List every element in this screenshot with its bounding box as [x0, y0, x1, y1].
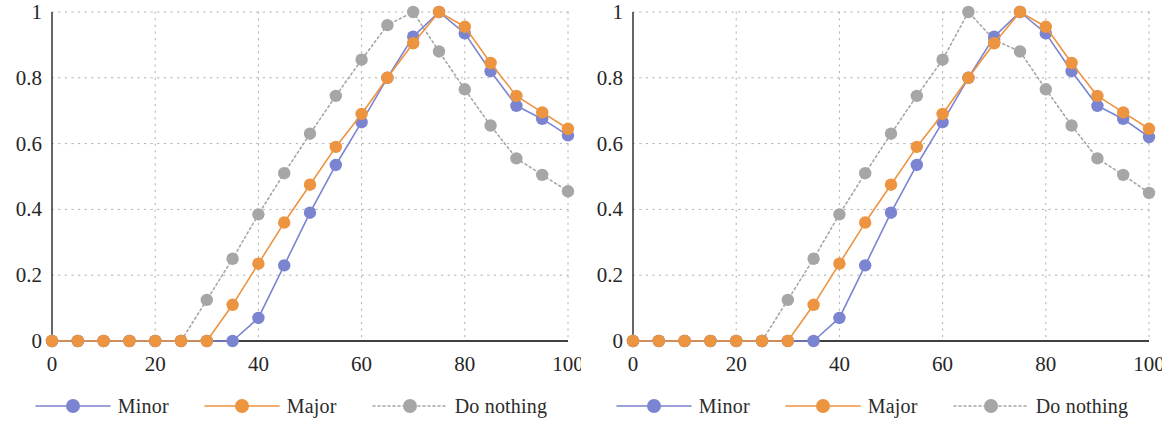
data-point-marker — [704, 335, 716, 347]
legend-swatch-icon — [203, 396, 281, 416]
x-tick-label: 40 — [829, 352, 850, 376]
y-tick-label: 0.2 — [597, 263, 623, 287]
data-point-marker — [1040, 21, 1052, 33]
legend-right: MinorMajorDo nothing — [581, 388, 1162, 424]
x-tick-label: 0 — [628, 352, 639, 376]
data-point-marker — [355, 54, 367, 66]
legend-swatch-icon — [952, 396, 1030, 416]
line-chart-left: 00.20.40.60.81020406080100 — [0, 0, 581, 390]
data-point-marker — [962, 6, 974, 18]
data-point-marker — [988, 37, 1000, 49]
data-point-marker — [226, 253, 238, 265]
data-point-marker — [433, 45, 445, 57]
data-point-marker — [252, 257, 264, 269]
data-point-marker — [859, 259, 871, 271]
data-point-marker — [484, 119, 496, 131]
x-tick-label: 60 — [351, 352, 372, 376]
legend-entry-major[interactable]: Major — [203, 395, 337, 418]
legend-entry-do-nothing[interactable]: Do nothing — [952, 395, 1129, 418]
data-point-marker — [859, 216, 871, 228]
data-point-marker — [1014, 45, 1026, 57]
data-point-marker — [730, 335, 742, 347]
legend-label: Major — [287, 395, 337, 418]
data-point-marker — [201, 294, 213, 306]
legend-swatch-icon — [615, 396, 693, 416]
data-point-marker — [1143, 187, 1155, 199]
data-point-marker — [1014, 6, 1026, 18]
y-tick-label: 0.8 — [597, 66, 623, 90]
data-point-marker — [407, 6, 419, 18]
y-tick-label: 0 — [32, 329, 43, 353]
data-point-marker — [885, 128, 897, 140]
data-point-marker — [756, 335, 768, 347]
legend-swatch-icon — [34, 396, 112, 416]
figure-container: 00.20.40.60.81020406080100 MinorMajorDo … — [0, 0, 1163, 424]
data-point-marker — [936, 54, 948, 66]
data-point-marker — [97, 335, 109, 347]
legend-entry-major[interactable]: Major — [784, 395, 918, 418]
y-tick-label: 0.4 — [16, 197, 43, 221]
data-point-marker — [807, 253, 819, 265]
x-tick-label: 20 — [145, 352, 166, 376]
plot-area-right: 00.20.40.60.81020406080100 — [581, 0, 1162, 390]
data-point-marker — [407, 37, 419, 49]
data-point-marker — [536, 169, 548, 181]
data-point-marker — [330, 159, 342, 171]
data-point-marker — [885, 206, 897, 218]
legend-label: Do nothing — [1036, 395, 1129, 418]
x-tick-label: 20 — [726, 352, 747, 376]
y-tick-label: 0.6 — [597, 132, 623, 156]
legend-entry-minor[interactable]: Minor — [34, 395, 169, 418]
y-tick-label: 1 — [613, 0, 624, 24]
legend-entry-do-nothing[interactable]: Do nothing — [371, 395, 548, 418]
data-point-marker — [536, 106, 548, 118]
chart-panel-right: 00.20.40.60.81020406080100 MinorMajorDo … — [581, 0, 1162, 424]
data-point-marker — [72, 335, 84, 347]
data-point-marker — [627, 335, 639, 347]
data-point-marker — [1065, 57, 1077, 69]
data-point-marker — [149, 335, 161, 347]
x-tick-label: 100 — [1133, 352, 1162, 376]
x-tick-label: 100 — [552, 352, 581, 376]
data-point-marker — [859, 167, 871, 179]
data-point-marker — [1065, 119, 1077, 131]
data-point-marker — [175, 335, 187, 347]
y-tick-label: 1 — [32, 0, 43, 24]
line-chart-right: 00.20.40.60.81020406080100 — [581, 0, 1162, 390]
y-tick-label: 0 — [613, 329, 624, 353]
data-point-marker — [562, 123, 574, 135]
data-point-marker — [201, 335, 213, 347]
legend-label: Minor — [699, 395, 750, 418]
data-point-marker — [510, 152, 522, 164]
data-point-marker — [484, 57, 496, 69]
data-point-marker — [678, 335, 690, 347]
chart-panel-left: 00.20.40.60.81020406080100 MinorMajorDo … — [0, 0, 581, 424]
data-point-marker — [355, 108, 367, 120]
legend-entry-minor[interactable]: Minor — [615, 395, 750, 418]
legend-label: Do nothing — [455, 395, 548, 418]
data-point-marker — [562, 185, 574, 197]
legend-label: Minor — [118, 395, 169, 418]
x-tick-label: 80 — [454, 352, 475, 376]
data-point-marker — [911, 90, 923, 102]
x-tick-label: 40 — [248, 352, 269, 376]
data-point-marker — [381, 72, 393, 84]
data-point-marker — [885, 179, 897, 191]
data-point-marker — [1091, 90, 1103, 102]
data-point-marker — [653, 335, 665, 347]
data-point-marker — [1143, 123, 1155, 135]
data-point-marker — [911, 141, 923, 153]
data-point-marker — [1117, 106, 1129, 118]
data-point-marker — [46, 335, 58, 347]
data-point-marker — [433, 6, 445, 18]
data-point-marker — [278, 216, 290, 228]
data-point-marker — [510, 90, 522, 102]
legend-swatch-icon — [371, 396, 449, 416]
data-point-marker — [252, 312, 264, 324]
x-tick-label: 0 — [47, 352, 58, 376]
data-point-marker — [1091, 152, 1103, 164]
data-point-marker — [782, 294, 794, 306]
y-tick-label: 0.6 — [16, 132, 42, 156]
x-tick-label: 80 — [1035, 352, 1056, 376]
data-point-marker — [123, 335, 135, 347]
